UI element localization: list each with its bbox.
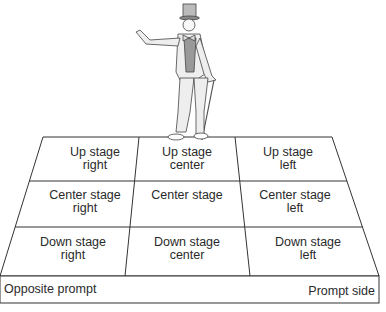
prompt-side-label: Prompt side [308,284,375,298]
cell-down-stage-right: Down stage right [23,236,123,262]
cell-down-stage-center: Down stage center [137,236,237,262]
cell-up-stage-left: Up stage left [248,146,328,172]
opposite-prompt-label: Opposite prompt [4,282,96,296]
cell-center-stage-left: Center stage left [245,189,345,215]
cell-label-line2: right [55,159,135,172]
cell-label-line2: right [35,202,135,215]
cell-label-line2: center [137,249,237,262]
cell-label-line2: left [248,159,328,172]
cell-up-stage-center: Up stage center [147,146,227,172]
actor-figure [136,4,216,140]
cell-up-stage-right: Up stage right [55,146,135,172]
cell-center-stage: Center stage [137,189,237,202]
cell-center-stage-right: Center stage right [35,189,135,215]
cell-label-line1: Center stage [137,189,237,202]
cell-label-line2: left [245,202,345,215]
cell-label-line2: right [23,249,123,262]
cell-label-line2: center [147,159,227,172]
cell-down-stage-left: Down stage left [258,236,358,262]
cell-label-line2: left [258,249,358,262]
